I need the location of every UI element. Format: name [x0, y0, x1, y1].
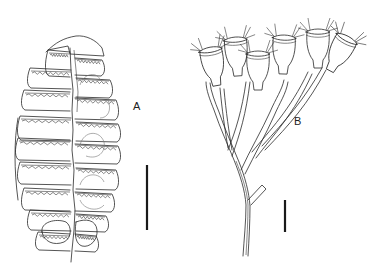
hydrotheca [215, 25, 258, 78]
specimen-a-segment [17, 162, 71, 185]
specimen-a-right-segments [75, 58, 121, 252]
specimen-a-segment [75, 234, 99, 252]
hydrotheca [188, 33, 236, 89]
specimen-a-segment [75, 58, 105, 76]
specimen-a-segment [17, 116, 71, 141]
specimen-a-segment [21, 90, 70, 111]
specimen-a-central-stem [70, 48, 75, 262]
specimen-a-drawing [15, 36, 121, 262]
specimen-a-bottom-right-lobe [75, 220, 97, 246]
hydrotheca [312, 17, 371, 80]
specimen-a-segment [76, 168, 119, 190]
panel-label-a: A [133, 100, 141, 112]
specimen-a-segment [15, 138, 70, 161]
specimen-b-drawing [188, 17, 371, 256]
specimen-b-hydrothecae [188, 17, 371, 90]
figure-canvas: A B [0, 0, 382, 269]
specimen-a-segment [75, 144, 121, 164]
specimen-a-segment [27, 68, 71, 89]
specimen-b-right-branch [241, 80, 284, 170]
specimen-a-segment [21, 188, 70, 211]
specimen-a-left-segments [15, 50, 71, 251]
specimen-a-segment [75, 98, 119, 120]
panel-label-b: B [294, 115, 301, 127]
specimen-a-segment [76, 214, 109, 232]
specimen-a-bottom-left-lobe [42, 220, 70, 243]
specimen-a-segment [27, 210, 71, 231]
